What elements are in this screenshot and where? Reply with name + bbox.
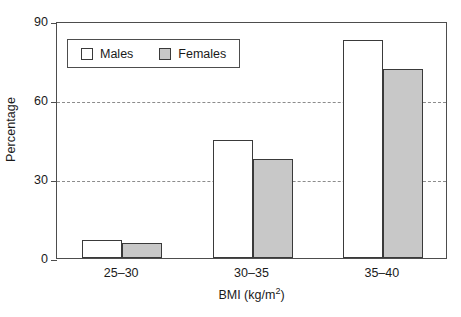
legend-label-females: Females [178,47,226,61]
bar-females-25–30 [122,243,162,258]
y-axis-tick [51,181,57,182]
bar-females-35–40 [383,69,423,258]
legend-entry-females: Females [159,47,226,61]
y-axis-tick [51,23,57,24]
legend-swatch-males-icon [81,48,93,60]
x-axis-title-tail: ) [280,288,284,302]
y-axis-tick [51,102,57,103]
bar-males-25–30 [82,240,122,258]
legend-swatch-females-icon [159,48,171,60]
y-axis-tick-label: 60 [6,94,48,108]
y-axis-title: Percentage [0,0,22,259]
bar-females-30–35 [253,159,293,258]
bar-males-30–35 [213,140,253,259]
y-axis-tick-label: 90 [6,15,48,29]
legend: Males Females [67,39,240,68]
x-axis-tick-label: 30–35 [234,266,269,280]
y-axis-tick [51,260,57,261]
x-axis-title-base: BMI (kg/m [218,288,275,302]
bar-males-35–40 [343,40,383,258]
y-axis-tick-label: 0 [6,252,48,266]
x-axis-tick-label: 25–30 [104,266,139,280]
bar-chart: Percentage 0306090 25–3030–3535–40 BMI (… [0,0,461,317]
y-axis-tick-label: 30 [6,173,48,187]
legend-label-males: Males [100,47,133,61]
x-axis-tick-label: 35–40 [364,266,399,280]
x-axis-title: BMI (kg/m2) [56,288,447,302]
legend-entry-males: Males [81,47,133,61]
